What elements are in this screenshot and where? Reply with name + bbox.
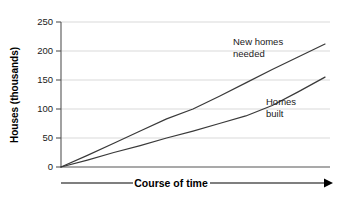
annotation-new-homes-line2: needed <box>233 48 265 59</box>
x-axis-title: Course of time <box>134 177 208 189</box>
y-tick-label-100: 100 <box>37 103 53 114</box>
annotation-homes-built-line1: Homes <box>266 96 296 107</box>
y-tick-label-50: 50 <box>42 132 53 143</box>
y-axis-title: Houses (thousands) <box>9 47 20 143</box>
line-chart: 250 200 150 100 50 0 Houses (thousands) … <box>0 0 341 199</box>
y-tick-label-150: 150 <box>37 74 53 85</box>
y-tick-label-200: 200 <box>37 45 53 56</box>
y-tick-label-0: 0 <box>48 161 53 172</box>
y-tick-label-250: 250 <box>37 16 53 27</box>
chart-canvas: 250 200 150 100 50 0 Houses (thousands) … <box>0 0 341 199</box>
annotation-new-homes-line1: New homes <box>233 36 283 47</box>
annotation-homes-built-line2: built <box>266 108 284 119</box>
